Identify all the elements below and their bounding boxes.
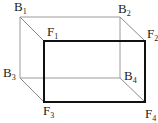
back-face	[20, 17, 120, 78]
label-f1: F1	[47, 24, 58, 41]
label-b1: B1	[14, 0, 27, 16]
depth-edges	[20, 17, 145, 102]
edge-b3-f3	[20, 78, 44, 102]
label-f3: F3	[43, 103, 54, 120]
label-b3: B3	[3, 65, 16, 82]
label-b4: B4	[124, 68, 137, 85]
edge-b1-f1	[20, 17, 44, 41]
label-f2: F2	[147, 26, 158, 43]
label-b2: B2	[118, 1, 131, 18]
label-f4: F4	[145, 106, 156, 123]
edge-b2-f2	[120, 17, 145, 41]
cuboid-diagram: B1 B2 F1 F2 B3 B4 F3 F4	[0, 0, 158, 123]
